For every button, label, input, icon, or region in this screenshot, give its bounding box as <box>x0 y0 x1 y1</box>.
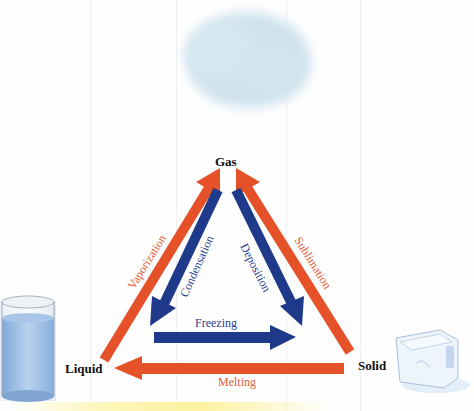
melting-label: Melting <box>218 375 256 389</box>
cloud-image <box>186 12 310 108</box>
melting-arrowhead <box>114 356 142 380</box>
ice-cube-image <box>396 330 470 393</box>
glass-of-water-image <box>0 296 56 402</box>
gas-label: Gas <box>215 154 237 170</box>
phase-diagram: Vaporization Condensation Deposition Sub… <box>0 0 474 411</box>
freezing-label: Freezing <box>195 316 237 330</box>
melting-arrow <box>140 363 344 374</box>
diagram-canvas: Vaporization Condensation Deposition Sub… <box>0 0 474 411</box>
liquid-label: Liquid <box>65 361 103 377</box>
solid-label: Solid <box>358 358 386 374</box>
